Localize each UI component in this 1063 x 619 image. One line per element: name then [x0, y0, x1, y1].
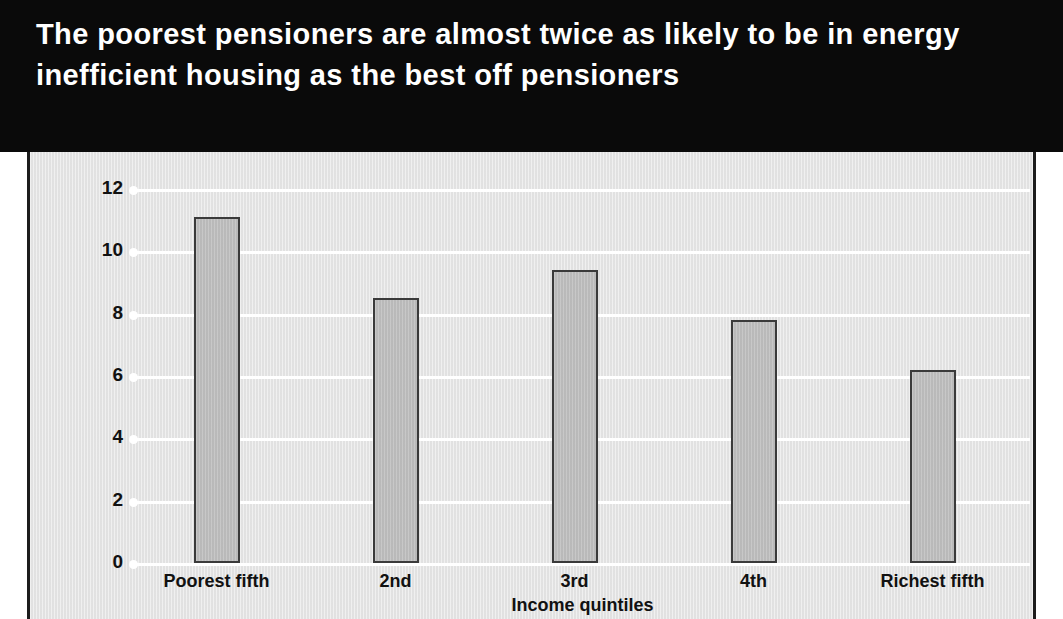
- bar: [194, 217, 240, 563]
- y-tick-marker: [129, 311, 138, 320]
- y-tick-marker: [129, 373, 138, 382]
- y-tick-label: 2: [112, 489, 123, 511]
- y-tick-label: 6: [112, 364, 123, 386]
- y-tick-marker: [129, 498, 138, 507]
- x-tick-label: Poorest fifth: [164, 571, 270, 592]
- bar: [552, 270, 598, 563]
- bar: [373, 298, 419, 563]
- x-tick-label: 3rd: [560, 571, 588, 592]
- y-tick-marker: [129, 248, 138, 257]
- gridline: 10: [135, 251, 1030, 254]
- x-tick-label: 2nd: [379, 571, 411, 592]
- x-tick-label: 4th: [740, 571, 767, 592]
- y-tick-label: 8: [112, 302, 123, 324]
- y-tick-label: 0: [112, 551, 123, 573]
- gridline: 0: [135, 563, 1030, 566]
- y-axis-title: Homes which are energy inefficient (per …: [27, 152, 40, 248]
- y-tick-label: 10: [102, 239, 123, 261]
- plot-area: 024681012Poorest fifth2nd3rd4thRichest f…: [135, 189, 1030, 563]
- bar: [910, 370, 956, 563]
- y-tick-marker: [129, 186, 138, 195]
- bar: [731, 320, 777, 563]
- y-tick-label: 12: [102, 177, 123, 199]
- x-axis-title: Income quintiles: [135, 595, 1030, 616]
- title-band: The poorest pensioners are almost twice …: [0, 0, 1063, 152]
- chart-title: The poorest pensioners are almost twice …: [36, 14, 1027, 96]
- chart-panel: Homes which are energy inefficient (per …: [27, 152, 1036, 619]
- chart-screenshot: The poorest pensioners are almost twice …: [0, 0, 1063, 619]
- y-tick-marker: [129, 435, 138, 444]
- y-tick-label: 4: [112, 426, 123, 448]
- x-tick-label: Richest fifth: [880, 571, 984, 592]
- gridline: 12: [135, 189, 1030, 192]
- y-tick-marker: [129, 560, 138, 569]
